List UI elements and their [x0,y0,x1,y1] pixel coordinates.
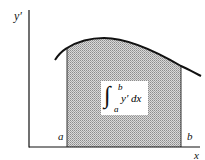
lower-bound-label: a [58,131,64,142]
upper-bound-label: b [187,131,193,142]
integrand: y′ dx [121,92,141,104]
integral-sign-icon: ∫ [104,83,111,107]
integral-upper-limit: b [118,82,123,92]
y-axis-label: y′ [14,10,22,22]
integral-diagram [0,0,205,160]
integral-label-box: ∫ b a y′ dx [101,81,148,115]
x-axis-label: x [194,150,199,160]
integral-lower-limit: a [114,104,119,114]
